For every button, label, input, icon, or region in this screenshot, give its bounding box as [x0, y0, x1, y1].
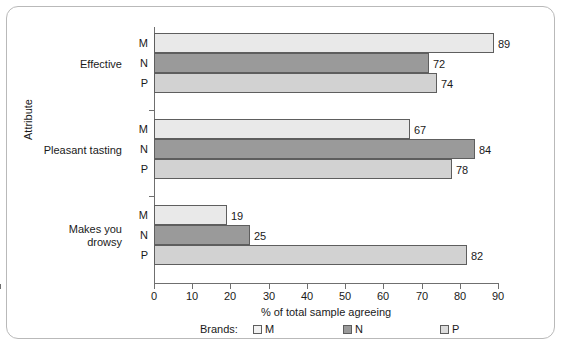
- x-tick-label-50: 50: [339, 290, 351, 302]
- bar-value-effective-m: 89: [498, 39, 510, 50]
- legend-item-m[interactable]: M: [253, 323, 274, 335]
- x-tick-80: [460, 284, 461, 289]
- bar-value-effective-n: 72: [433, 59, 445, 70]
- x-tick-20: [0, 284, 1, 289]
- x-axis-title: % of total sample agreeing: [154, 306, 498, 318]
- x-tick-30: [269, 284, 270, 289]
- x-tick-label-70: 70: [416, 290, 428, 302]
- y-label-effective-n: N: [130, 58, 148, 69]
- legend-item-n[interactable]: N: [343, 323, 363, 335]
- bar-value-drowsy-p: 82: [471, 251, 483, 262]
- bar-value-drowsy-n: 25: [254, 231, 266, 242]
- x-tick-label-90: 90: [492, 290, 504, 302]
- y-axis-group-separator-2: [149, 196, 154, 197]
- y-label-pleasant-m: M: [130, 124, 148, 135]
- group-label-pleasant-tasting: Pleasant tasting: [30, 144, 122, 157]
- legend-title: Brands:: [200, 323, 238, 335]
- x-tick-70: [422, 284, 423, 289]
- y-axis-title: Attribute: [22, 99, 34, 140]
- legend-item-p[interactable]: P: [440, 323, 459, 335]
- y-label-drowsy-n: N: [130, 230, 148, 241]
- y-label-pleasant-n: N: [130, 144, 148, 155]
- x-tick-label-80: 80: [454, 290, 466, 302]
- bar-drowsy-m: [154, 205, 227, 225]
- x-tick-50: [345, 284, 346, 289]
- legend-swatch-n-icon: [343, 325, 352, 334]
- bar-value-pleasant-m: 67: [414, 125, 426, 136]
- bar-value-drowsy-m: 19: [231, 211, 243, 222]
- y-label-drowsy-m: M: [130, 210, 148, 221]
- x-axis-line: [154, 283, 499, 284]
- x-tick-90: [498, 284, 499, 289]
- bar-drowsy-p: [154, 245, 467, 265]
- group-label-makes-you-drowsy: Makes you drowsy: [30, 223, 122, 249]
- y-label-effective-m: M: [130, 38, 148, 49]
- bar-pleasant-p: [154, 159, 452, 179]
- chart-screenshot: 0 10 20 30 40 50 60 70 80 90 89 72 74 67…: [0, 0, 568, 351]
- legend-label-n: N: [355, 323, 363, 335]
- group-label-effective: Effective: [30, 58, 122, 71]
- legend-swatch-m-icon: [253, 325, 262, 334]
- legend-label-p: P: [452, 323, 459, 335]
- legend-swatch-p-icon: [440, 325, 449, 334]
- y-label-effective-p: P: [130, 78, 148, 89]
- bar-effective-p: [154, 73, 437, 93]
- legend-label-m: M: [265, 323, 274, 335]
- bar-drowsy-n: [154, 225, 250, 245]
- bar-effective-n: [154, 53, 429, 73]
- x-tick-20b: [230, 284, 231, 289]
- x-tick-label-40: 40: [301, 290, 313, 302]
- bar-effective-m: [154, 33, 494, 53]
- y-axis-group-separator-1: [149, 110, 154, 111]
- x-tick-label-60: 60: [377, 290, 389, 302]
- bar-pleasant-n: [154, 139, 475, 159]
- bar-value-effective-p: 74: [441, 79, 453, 90]
- y-label-drowsy-p: P: [130, 250, 148, 261]
- bar-pleasant-m: [154, 119, 410, 139]
- x-tick-label-0: 0: [151, 290, 157, 302]
- bar-value-pleasant-p: 78: [456, 165, 468, 176]
- x-tick-label-20: 20: [224, 290, 236, 302]
- x-tick-10: [192, 284, 193, 289]
- bar-value-pleasant-n: 84: [479, 145, 491, 156]
- x-tick-0: [154, 284, 155, 289]
- x-tick-label-30: 30: [263, 290, 275, 302]
- x-tick-label-10: 10: [186, 290, 198, 302]
- y-label-pleasant-p: P: [130, 164, 148, 175]
- x-tick-40: [307, 284, 308, 289]
- x-tick-60: [383, 284, 384, 289]
